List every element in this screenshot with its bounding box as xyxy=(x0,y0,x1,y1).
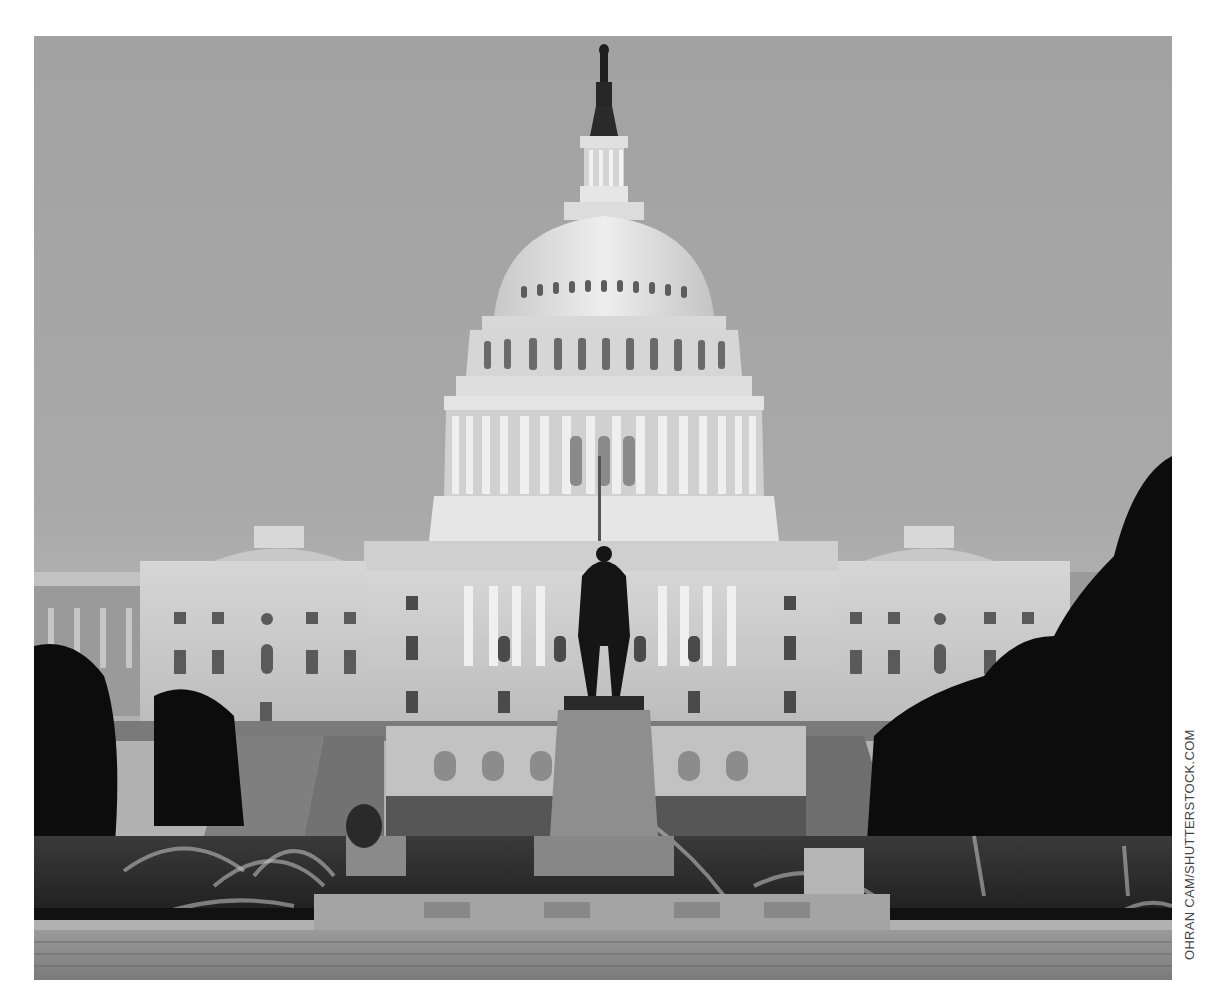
dome-lantern xyxy=(564,136,644,220)
capitol-photo xyxy=(34,36,1172,980)
capitol-scene xyxy=(34,36,1172,980)
capitol-dome xyxy=(429,216,779,546)
photo-credit: OHRAN CAM/SHUTTERSTOCK.COM xyxy=(1182,729,1197,960)
statue-of-freedom xyxy=(590,44,618,136)
